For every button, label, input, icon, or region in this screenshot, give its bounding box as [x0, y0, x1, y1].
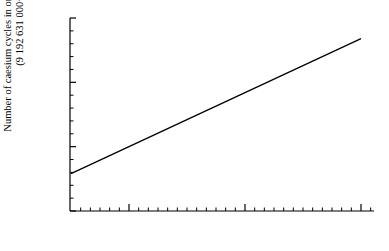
plot-area [0, 0, 389, 251]
chart-figure: Number of caesium cycles in one second o… [0, 0, 389, 251]
trend-line [71, 39, 361, 174]
